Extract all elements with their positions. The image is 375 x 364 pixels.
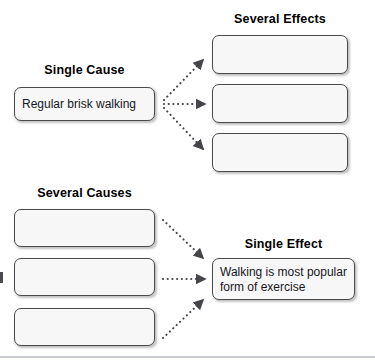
node-several-causes-2[interactable]	[14, 258, 155, 296]
node-single-effect-1[interactable]: Walking is most popular form of exercise	[212, 258, 355, 300]
diagram-canvas: Single Cause Regular brisk walking Sever…	[0, 0, 375, 364]
arrow-cause-3-to-effect	[163, 300, 203, 338]
arrow-cause-to-effect-1	[164, 60, 203, 100]
footer-divider	[0, 356, 375, 358]
node-single-cause-1[interactable]: Regular brisk walking	[14, 87, 155, 121]
arrow-cause-1-to-effect	[163, 220, 203, 258]
node-several-effects-2[interactable]	[212, 84, 348, 123]
node-several-causes-1[interactable]	[14, 209, 155, 247]
node-several-causes-3[interactable]	[14, 308, 155, 346]
node-several-effects-3[interactable]	[212, 133, 348, 172]
node-single-effect-1-text: Walking is most popular form of exercise	[220, 265, 349, 294]
heading-single-cause: Single Cause	[14, 63, 155, 77]
heading-single-effect: Single Effect	[212, 237, 355, 251]
arrow-cause-to-effect-3	[164, 108, 203, 149]
heading-several-causes: Several Causes	[14, 186, 155, 200]
node-single-cause-1-text: Regular brisk walking	[22, 97, 149, 112]
left-edge-clipped-mark	[0, 272, 3, 283]
node-several-effects-1[interactable]	[212, 35, 348, 74]
heading-several-effects: Several Effects	[212, 12, 348, 26]
